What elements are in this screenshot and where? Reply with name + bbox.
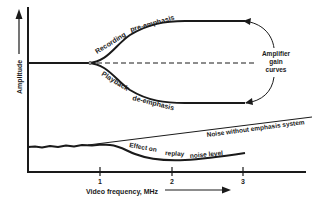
- amplifier-bracket-lower: [246, 77, 274, 103]
- tick-label-3: 3: [241, 178, 245, 185]
- pre-emphasis-label: pre-emphasis: [129, 14, 175, 34]
- tick-label-2: 2: [170, 178, 174, 185]
- amplifier-bracket-upper: [244, 21, 274, 48]
- amplifier-label-line3: curves: [266, 66, 287, 73]
- effect-on-label: Effect on: [129, 141, 158, 153]
- lower-arrowhead-icon: [245, 98, 253, 105]
- y-direction-arrow-icon: [16, 9, 23, 19]
- x-direction-arrow-icon: [222, 187, 231, 194]
- de-emphasis-label: de-emphasis: [132, 94, 176, 112]
- tick-label-1: 1: [98, 178, 102, 185]
- amplifier-label-line2: gain: [269, 58, 282, 66]
- split-point: [89, 62, 92, 65]
- noise-without-emphasis-label: Noise without emphasis system: [206, 118, 305, 139]
- y-axis-label: Amplitude: [16, 60, 24, 94]
- x-axis-label: Video frequency, MHz: [86, 188, 159, 196]
- amplifier-label-line1: Amplifier: [262, 50, 291, 58]
- upper-arrowhead-icon: [243, 18, 251, 25]
- playback-de-emphasis-curve: [88, 63, 245, 103]
- emphasis-diagram: 1 2 3 Video frequency, MHz Amplitude Rec…: [0, 0, 330, 203]
- playback-label: Playback: [100, 70, 130, 93]
- replay-label: replay: [165, 149, 185, 158]
